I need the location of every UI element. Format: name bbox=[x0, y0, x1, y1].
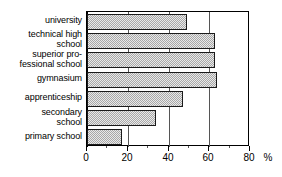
bar bbox=[87, 14, 187, 30]
category-label: university bbox=[0, 16, 82, 26]
x-tick-label-20: 20 bbox=[121, 152, 132, 163]
x-tick-label-80: 80 bbox=[243, 152, 254, 163]
category-label: gymnasium bbox=[0, 74, 82, 84]
category-label: apprenticeship bbox=[0, 93, 82, 103]
bar bbox=[87, 110, 156, 126]
x-tick-minor-30 bbox=[147, 146, 148, 148]
x-tick-minor-70 bbox=[229, 146, 230, 148]
bar bbox=[87, 91, 183, 107]
bar bbox=[87, 72, 217, 88]
category-label: superior pro- fessional school bbox=[0, 50, 82, 69]
bar bbox=[87, 52, 215, 68]
x-axis-unit-label: % bbox=[264, 152, 273, 163]
bar-chart: universitytechnical high schoolsuperior … bbox=[0, 0, 282, 177]
x-tick-label-60: 60 bbox=[202, 152, 213, 163]
category-label: secondary school bbox=[0, 108, 82, 127]
bar bbox=[87, 129, 122, 145]
bar bbox=[87, 33, 215, 49]
x-tick-label-0: 0 bbox=[83, 152, 89, 163]
plot-area bbox=[86, 11, 249, 146]
x-tick-20 bbox=[127, 146, 128, 151]
x-tick-0 bbox=[86, 146, 87, 151]
x-tick-60 bbox=[208, 146, 209, 151]
x-tick-80 bbox=[249, 146, 250, 151]
x-tick-label-40: 40 bbox=[162, 152, 173, 163]
category-label: primary school bbox=[0, 132, 82, 142]
category-label: technical high school bbox=[0, 30, 82, 49]
x-tick-minor-50 bbox=[188, 146, 189, 148]
x-tick-40 bbox=[168, 146, 169, 151]
x-axis: 020406080 bbox=[86, 146, 249, 177]
x-tick-minor-10 bbox=[106, 146, 107, 148]
category-axis: universitytechnical high schoolsuperior … bbox=[0, 11, 84, 146]
